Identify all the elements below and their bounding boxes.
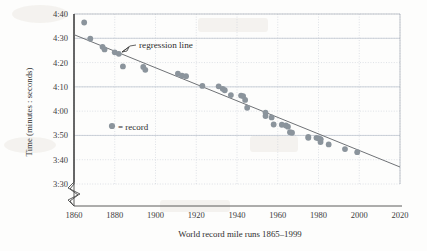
data-point [199, 83, 205, 89]
gridlines [74, 14, 400, 184]
regression-line-annotation-label: regression line [139, 40, 193, 50]
data-point [263, 113, 269, 119]
data-point [87, 36, 93, 42]
data-point [242, 97, 248, 103]
data-point [269, 115, 275, 121]
chart-figure: 4:404:304:204:104:003:503:403:30 1860188… [0, 0, 427, 251]
y-tick-labels: 4:404:304:204:104:003:503:403:30 [53, 9, 68, 189]
data-point [285, 124, 291, 130]
data-point [354, 149, 360, 155]
y-tick-label: 4:10 [53, 82, 68, 92]
x-tick-label: 1920 [188, 210, 205, 220]
data-point [142, 67, 148, 73]
y-tick-label: 3:30 [53, 179, 68, 189]
data-point [289, 130, 295, 136]
plot-frame [74, 14, 400, 184]
data-point [183, 73, 189, 79]
y-tick-label: 4:40 [53, 9, 68, 19]
data-point [222, 87, 228, 93]
regression-annotation: regression line [122, 40, 193, 52]
y-tick-label: 4:30 [53, 33, 68, 43]
data-point [305, 135, 311, 141]
data-point [244, 105, 250, 111]
y-tick-label: 4:00 [53, 106, 68, 116]
y-tick-label: 4:20 [53, 58, 68, 68]
y-tick-label: 3:50 [53, 130, 68, 140]
y-axis-title: Time (minutes : seconds) [24, 68, 34, 157]
data-point [102, 47, 108, 53]
legend: = record [109, 122, 149, 132]
legend-record-label: = record [118, 122, 149, 132]
legend-record-dot [109, 123, 115, 129]
x-tick-label: 2020 [392, 210, 409, 220]
x-tick-label: 1940 [229, 210, 246, 220]
x-tick-label: 1900 [147, 210, 164, 220]
paper-smudges [4, 5, 298, 212]
data-point [342, 146, 348, 152]
x-tick-label: 1880 [106, 210, 123, 220]
x-tick-labels: 186018801900192019401960198020002020 [66, 210, 409, 220]
x-tick-label: 2000 [351, 210, 368, 220]
data-point [326, 142, 332, 148]
data-point [120, 64, 126, 70]
x-tick-label: 1860 [66, 210, 83, 220]
y-axis [68, 14, 80, 206]
data-point [228, 92, 234, 98]
y-tick-label: 3:40 [53, 155, 68, 165]
data-point [318, 139, 324, 145]
x-axis-title: World record mile runs 1865–1999 [178, 229, 302, 239]
x-tick-label: 1960 [269, 210, 286, 220]
chart-canvas: 4:404:304:204:104:003:503:403:30 1860188… [0, 0, 427, 251]
data-point [116, 51, 122, 57]
data-point [271, 122, 277, 128]
x-tick-label: 1980 [310, 210, 327, 220]
data-point [81, 20, 87, 26]
